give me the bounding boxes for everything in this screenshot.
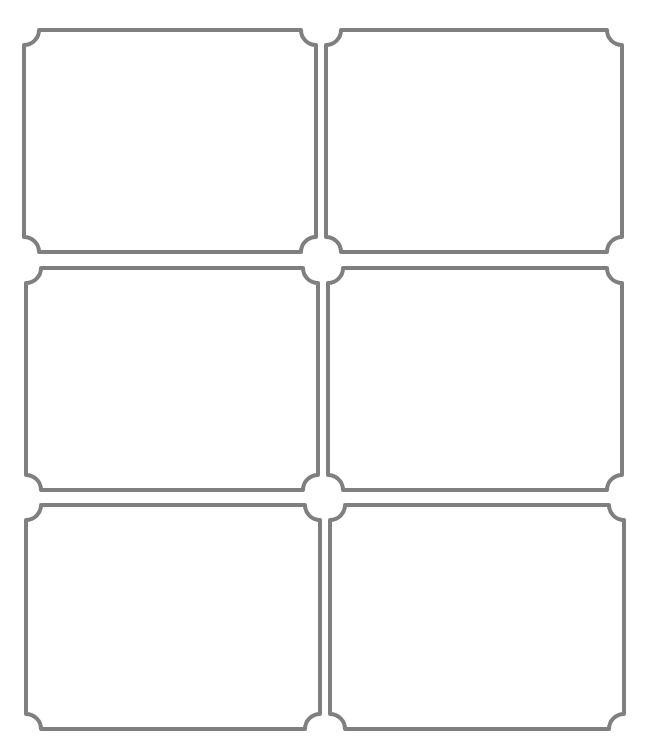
label-2-border	[326, 30, 622, 252]
label-frame-5[interactable]	[26, 505, 320, 729]
label-frame-2[interactable]	[326, 30, 622, 252]
label-3-border	[26, 268, 318, 490]
label-6-border	[330, 505, 624, 729]
label-sheet	[0, 0, 647, 749]
label-4-border	[328, 268, 622, 490]
label-frame-4[interactable]	[328, 268, 622, 490]
label-frame-1[interactable]	[24, 30, 316, 252]
label-frame-3[interactable]	[26, 268, 318, 490]
label-frame-6[interactable]	[330, 505, 624, 729]
label-5-border	[26, 505, 320, 729]
label-1-border	[24, 30, 316, 252]
